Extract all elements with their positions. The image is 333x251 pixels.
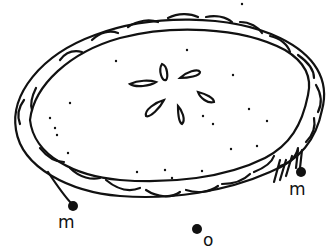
right-marker-dot: [296, 167, 306, 177]
vent-slits: [130, 64, 214, 124]
right-marker-label: m: [289, 181, 306, 198]
surface-specks: [49, 3, 268, 179]
left-marker-leader: [48, 172, 72, 204]
pie-diagram: m m o: [0, 0, 333, 251]
bottom-marker-dot: [192, 224, 202, 234]
bottom-marker-label: o: [203, 232, 213, 249]
left-marker-dot: [68, 201, 78, 211]
left-marker-label: m: [58, 214, 75, 231]
pie-drawing: [0, 0, 333, 251]
